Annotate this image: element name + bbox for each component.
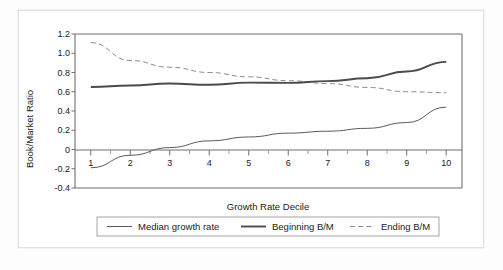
y-tick-label: 0.6	[57, 87, 70, 97]
legend-label-median-growth-rate: Median growth rate	[138, 221, 219, 232]
y-tick-label: 0.2	[57, 125, 70, 135]
x-tick-label: 8	[365, 158, 370, 168]
line-chart: Book/Market Ratio 1.21.00.80.60.40.20-0.…	[19, 11, 481, 245]
x-tick-label: 1	[88, 158, 93, 168]
y-tick-label: -0.2	[54, 164, 70, 174]
chart-legend: Median growth rate Beginning B/M Ending …	[97, 217, 439, 236]
x-tick-label: 2	[128, 158, 133, 168]
y-tick-label: 1.0	[57, 48, 70, 58]
chart-frame: Book/Market Ratio 1.21.00.80.60.40.20-0.…	[18, 10, 484, 248]
y-tick-label: 0	[65, 145, 70, 155]
x-tick-label: 9	[404, 158, 409, 168]
y-tick-label: 0.8	[57, 68, 70, 78]
x-axis-title: Growth Rate Decile	[227, 201, 309, 212]
x-tick-label: 5	[246, 158, 251, 168]
legend-label-ending-bm: Ending B/M	[381, 221, 430, 232]
x-tick-label: 4	[207, 158, 212, 168]
x-tick-label: 7	[325, 158, 330, 168]
x-tick-label: 6	[286, 158, 291, 168]
y-tick-label: 0.4	[57, 106, 70, 116]
y-tick-labels: 1.21.00.80.60.40.20-0.2-0.4	[54, 29, 70, 193]
legend-label-beginning-bm: Beginning B/M	[272, 221, 334, 232]
y-tick-label: -0.4	[54, 183, 70, 193]
y-tick-label: 1.2	[57, 29, 70, 39]
x-tick-label: 10	[441, 158, 451, 168]
y-axis-title: Book/Market Ratio	[24, 90, 35, 168]
x-tick-label: 3	[167, 158, 172, 168]
figure-container: Book/Market Ratio 1.21.00.80.60.40.20-0.…	[0, 0, 503, 270]
